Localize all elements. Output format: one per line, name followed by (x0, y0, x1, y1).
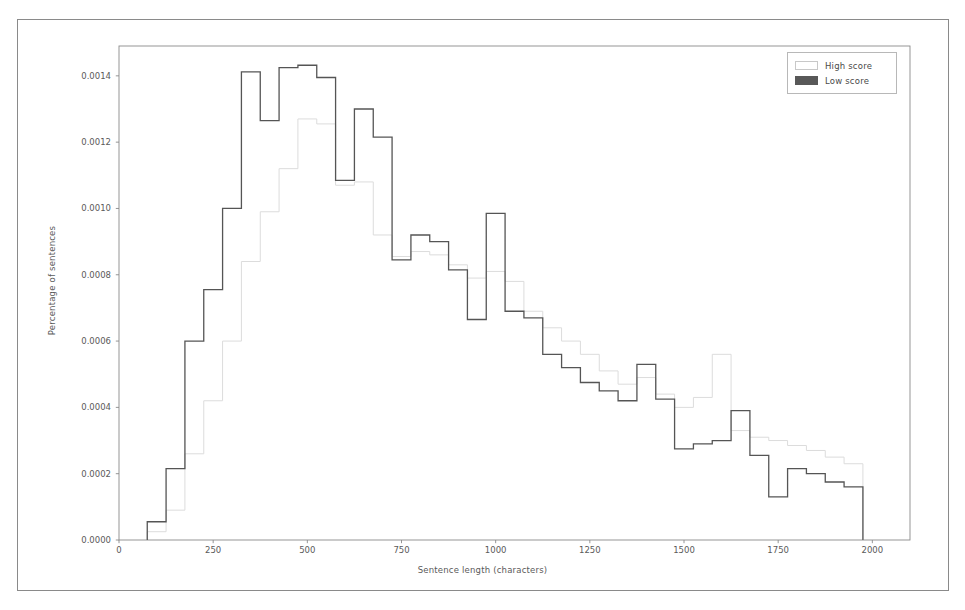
x-tick-label: 500 (299, 545, 315, 555)
x-axis-label: Sentence length (characters) (0, 565, 965, 575)
legend-label-high-score: High score (825, 61, 872, 71)
legend-swatch-high-score (795, 61, 818, 70)
legend-item-high-score: High score (795, 58, 890, 73)
x-tick-label: 250 (205, 545, 221, 555)
y-tick-label: 0.0000 (67, 535, 111, 545)
x-tick-label: 1750 (767, 545, 789, 555)
x-tick-label: 1250 (579, 545, 601, 555)
x-tick-label: 0 (116, 545, 121, 555)
y-axis-label: Percentage of sentences (47, 226, 57, 335)
axes-frame (119, 46, 910, 540)
y-axis-label-wrapper: Percentage of sentences (40, 201, 59, 361)
legend-swatch-low-score (795, 76, 818, 85)
x-tick-label: 1000 (485, 545, 507, 555)
series-low-score (147, 65, 863, 540)
y-tick-label: 0.0010 (67, 203, 111, 213)
legend: High score Low score (787, 52, 897, 94)
series-high-score (147, 119, 863, 540)
legend-item-low-score: Low score (795, 73, 890, 88)
x-tick-label: 2000 (862, 545, 884, 555)
y-tick-label: 0.0008 (67, 270, 111, 280)
y-tick-label: 0.0006 (67, 336, 111, 346)
legend-label-low-score: Low score (825, 76, 869, 86)
y-tick-label: 0.0012 (67, 137, 111, 147)
y-tick-label: 0.0002 (67, 469, 111, 479)
x-tick-label: 750 (393, 545, 409, 555)
x-tick-label: 1500 (673, 545, 695, 555)
y-tick-label: 0.0004 (67, 402, 111, 412)
y-tick-label: 0.0014 (67, 71, 111, 81)
figure: 025050075010001250150017502000 0.00000.0… (0, 0, 965, 610)
